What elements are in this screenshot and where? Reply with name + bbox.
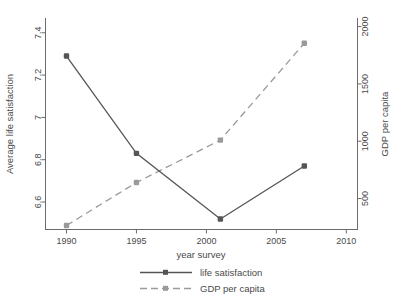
- series-life-satisfaction: [64, 53, 307, 221]
- y-axis-left-tick-labels: 6.66.877.27.4: [34, 27, 44, 209]
- x-axis-tick-label: 2005: [266, 236, 286, 246]
- x-axis-tick-label: 1995: [126, 236, 146, 246]
- line-chart-canvas: 6.66.877.27.4 500100015002000 1990199520…: [0, 0, 396, 303]
- axis-lines: [46, 18, 359, 230]
- series-gdp-per-capita: [64, 41, 307, 229]
- y-axis-right-tick-label: 1000: [361, 131, 371, 151]
- y-axis-left-tick-label: 6.6: [34, 196, 44, 209]
- series-line: [66, 56, 304, 219]
- data-point-marker: [134, 180, 139, 185]
- y-axis-left-tick-label: 7: [34, 115, 44, 120]
- y-axis-right-tick-label: 2000: [361, 17, 371, 37]
- x-axis-tick-label: 1990: [56, 236, 76, 246]
- chart-legend: life satisfaction GDP per capita: [140, 267, 265, 294]
- data-point-marker: [64, 53, 69, 58]
- data-point-marker: [64, 223, 69, 228]
- data-point-marker: [218, 216, 223, 221]
- y-axis-right-ticks: [358, 27, 362, 199]
- legend-label-gdp-per-capita: GDP per capita: [200, 283, 265, 294]
- data-point-marker: [134, 151, 139, 156]
- x-axis-tick-label: 2010: [336, 236, 356, 246]
- legend-marker-square-solid: [163, 270, 168, 275]
- x-axis-tick-labels: 19901995200020052010: [56, 236, 356, 246]
- legend-item-gdp-per-capita: GDP per capita: [140, 283, 265, 294]
- y-axis-left-tick-label: 6.8: [34, 153, 44, 166]
- y-axis-right-tick-label: 500: [361, 191, 371, 206]
- legend-item-life-satisfaction: life satisfaction: [140, 267, 262, 278]
- data-point-marker: [218, 137, 223, 142]
- y-axis-right-title: GDP per capita: [379, 91, 390, 156]
- chart-figure: 6.66.877.27.4 500100015002000 1990199520…: [0, 0, 396, 303]
- legend-label-life-satisfaction: life satisfaction: [200, 267, 262, 278]
- y-axis-right-tick-labels: 500100015002000: [361, 17, 371, 206]
- y-axis-left-tick-label: 7.4: [34, 27, 44, 40]
- y-axis-left-tick-label: 7.2: [34, 69, 44, 82]
- x-axis-title: year survey: [176, 249, 225, 260]
- series-line: [66, 43, 304, 225]
- x-axis-tick-label: 2000: [196, 236, 216, 246]
- data-point-marker: [302, 163, 307, 168]
- y-axis-right-tick-label: 1500: [361, 74, 371, 94]
- data-point-marker: [302, 41, 307, 46]
- x-axis-ticks: [66, 230, 346, 234]
- y-axis-left-title: Average life satisfaction: [4, 74, 15, 174]
- legend-marker-square-dashed: [163, 286, 168, 291]
